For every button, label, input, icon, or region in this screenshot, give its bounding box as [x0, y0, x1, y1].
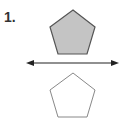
right-arrowhead-icon [111, 60, 119, 66]
line-of-reflection [26, 60, 119, 66]
original-pentagon [50, 10, 95, 54]
reflection-diagram [0, 0, 126, 125]
image-pentagon [50, 73, 95, 117]
left-arrowhead-icon [26, 60, 34, 66]
